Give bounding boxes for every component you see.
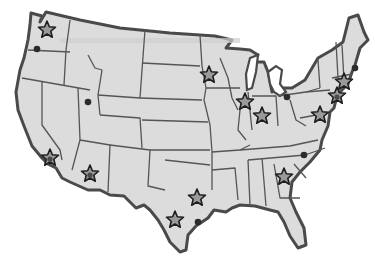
us-landmass <box>16 12 368 252</box>
map-band <box>60 38 240 43</box>
dot-houston-icon <box>195 219 202 226</box>
dot-detroit-icon <box>284 94 291 101</box>
dot-salt-lake-icon <box>85 99 92 106</box>
us-map <box>0 0 375 269</box>
dot-portland-icon <box>34 46 41 53</box>
dot-maine-icon <box>352 65 359 72</box>
dot-charlotte-icon <box>301 152 308 159</box>
